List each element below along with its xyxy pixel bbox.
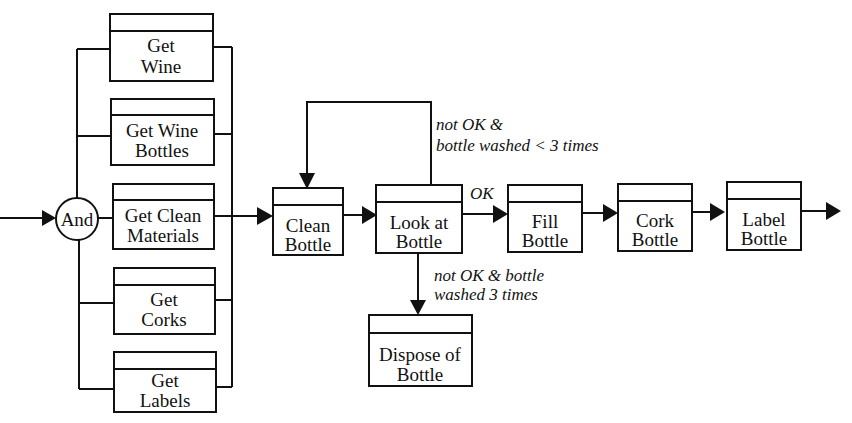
task-get-wine-bottles[interactable]: Get Wine Bottles [111,99,214,165]
task-cork-bottle[interactable]: Cork Bottle [618,184,692,251]
task-label-line2: Bottle [522,230,568,251]
task-label-line1: Get Wine [126,120,198,141]
process-diagram: And Get Wine Get Wine Bottles Get Clean … [0,0,852,423]
task-label-line1: Label [742,209,785,230]
task-clean-bottle[interactable]: Clean Bottle [273,188,343,255]
task-label-line1: Get [151,370,179,391]
look-arrowhead [362,206,377,224]
and-junction-label: And [61,209,94,230]
task-label-line2: Bottle [397,364,443,385]
dispose-arrowhead [410,300,426,315]
and-junction[interactable]: And [56,198,98,240]
end-arrowhead [826,202,841,220]
dispose-condition-line1: not OK & bottle [434,266,544,285]
start-arrowhead [42,210,56,226]
task-label-line1: Get [147,35,175,56]
task-label-line2: Labels [140,390,191,411]
task-get-labels[interactable]: Get Labels [114,352,216,412]
task-label-line1: Fill [532,211,558,232]
loop-condition-label: not OK & bottle washed < 3 times [436,115,599,155]
task-label-line2: Wine [141,56,181,77]
task-label-line2: Corks [141,309,186,330]
task-label-line1: Cork [636,210,675,231]
task-label-line2: Bottle [632,229,678,250]
loop-arrowhead [299,173,315,189]
task-label-line2: Bottles [135,140,189,161]
task-label-line1: Clean [286,215,331,236]
task-get-wine[interactable]: Get Wine [110,14,213,81]
task-label-line2: Materials [127,225,199,246]
task-label-line1: Get Clean [125,205,202,226]
ok-condition-label: OK [470,184,495,203]
dispose-condition-line2: washed 3 times [434,285,538,304]
loop-condition-line1: not OK & [436,115,504,134]
task-label-line2: Bottle [396,231,442,252]
task-label-bottle[interactable]: Label Bottle [727,182,801,250]
clean-bottle-arrowhead [257,207,273,225]
task-get-clean-materials[interactable]: Get Clean Materials [113,184,214,249]
task-label-line1: Get [150,289,178,310]
label-arrowhead [710,203,725,221]
task-look-at-bottle[interactable]: Look at Bottle [376,185,462,253]
loop-condition-line2: bottle washed < 3 times [436,136,599,155]
dispose-condition-label: not OK & bottle washed 3 times [434,266,544,304]
task-get-corks[interactable]: Get Corks [114,268,215,334]
task-dispose-of-bottle[interactable]: Dispose of Bottle [369,315,472,386]
task-label-line1: Look at [390,212,449,233]
task-label-line2: Bottle [285,234,331,255]
fill-arrowhead [493,205,508,223]
task-label-line2: Bottle [741,228,787,249]
loop-back-line [307,102,431,185]
task-fill-bottle[interactable]: Fill Bottle [508,185,582,252]
cork-arrowhead [603,204,618,222]
task-label-line1: Dispose of [379,344,461,365]
